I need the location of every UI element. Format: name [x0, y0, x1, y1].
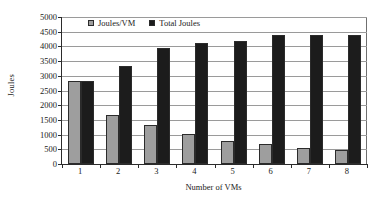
y-axis-tick-label: 1000: [0, 130, 61, 140]
bar-group: [100, 17, 138, 164]
chart-legend: Joules/VMTotal Joules: [88, 18, 200, 28]
x-axis-tick-mark: [367, 164, 368, 168]
plot-area: [61, 17, 367, 165]
y-axis-tick-label: 2500: [0, 86, 61, 96]
bar-chart: Joules 050010001500200025003000350040004…: [0, 0, 377, 200]
bar-total-joules: [348, 35, 361, 164]
y-axis-tick-label: 4500: [0, 27, 61, 37]
bar-total-joules: [310, 35, 323, 164]
bar-total-joules: [195, 43, 208, 164]
bar-total-joules: [234, 41, 247, 164]
x-axis-tick-label: 6: [252, 166, 290, 176]
bar-joules-vm: [297, 148, 310, 164]
x-axis-tick-label: 5: [214, 166, 252, 176]
legend-label: Joules/VM: [98, 18, 135, 28]
y-axis-tick-label: 1500: [0, 115, 61, 125]
y-axis-tick-label: 5000: [0, 12, 61, 22]
legend-label: Total Joules: [159, 18, 200, 28]
y-axis-tick-label: 500: [0, 144, 61, 154]
y-axis-tick-label: 2000: [0, 100, 61, 110]
bar-group: [62, 17, 100, 164]
y-axis-tick-label: 3000: [0, 71, 61, 81]
bar-group: [291, 17, 329, 164]
bar-joules-vm: [106, 115, 119, 164]
bar-joules-vm: [182, 134, 195, 164]
bars-layer: [62, 17, 367, 164]
y-axis-tick-label: 3500: [0, 56, 61, 66]
bar-joules-vm: [68, 81, 81, 164]
bar-group: [215, 17, 253, 164]
legend-item: Total Joules: [149, 18, 200, 28]
legend-swatch-icon: [149, 20, 155, 26]
bar-joules-vm: [335, 150, 348, 164]
y-axis-tick-label: 0: [0, 159, 61, 169]
bar-group: [253, 17, 291, 164]
y-axis-tick-label: 4000: [0, 41, 61, 51]
bar-group: [329, 17, 367, 164]
x-axis-title: Number of VMs: [61, 182, 366, 192]
bar-total-joules: [119, 66, 132, 164]
bar-total-joules: [157, 48, 170, 164]
bar-total-joules: [272, 35, 285, 164]
x-axis-tick-label: 4: [175, 166, 213, 176]
x-axis-tick-label: 8: [328, 166, 366, 176]
legend-swatch-icon: [88, 20, 94, 26]
x-axis-tick-labels: 12345678: [61, 166, 366, 176]
bar-joules-vm: [259, 144, 272, 164]
x-axis-tick-label: 1: [61, 166, 99, 176]
bar-group: [176, 17, 214, 164]
x-axis-tick-label: 3: [137, 166, 175, 176]
x-axis-tick-label: 2: [99, 166, 137, 176]
bar-joules-vm: [221, 141, 234, 164]
bar-total-joules: [81, 81, 94, 164]
bar-group: [138, 17, 176, 164]
x-axis-tick-label: 7: [290, 166, 328, 176]
bar-joules-vm: [144, 125, 157, 164]
legend-item: Joules/VM: [88, 18, 135, 28]
